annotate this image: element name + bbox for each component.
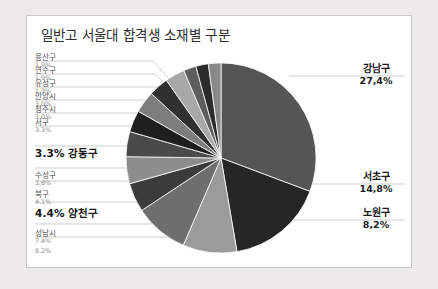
slice-label-seongnam: 성남시 7.4% bbox=[35, 230, 56, 245]
slice-label-nowon: 노원구 8,2% bbox=[347, 208, 405, 229]
slice-label-extra-pct: 8.2% bbox=[35, 248, 51, 255]
pie-svg bbox=[123, 60, 319, 256]
slice-label-gangnam: 강남구 27,4% bbox=[347, 64, 405, 85]
slice-label-pct: 7.4% bbox=[35, 238, 56, 245]
slice-label-bukgu: 북구 4.1% bbox=[35, 191, 51, 206]
slice-label-pct: 8.2% bbox=[35, 248, 51, 255]
slice-label-pct: 8,2% bbox=[347, 220, 405, 230]
slice-label-pct: 3.3% bbox=[35, 127, 51, 134]
slice-label-pct: 4.1% bbox=[35, 199, 51, 206]
slice-label-suseong: 수성구 3.8% bbox=[35, 172, 56, 187]
slice-label-name: 노원구 bbox=[347, 208, 405, 219]
slice-label-yangcheon: 4.4% 양천구 bbox=[35, 208, 99, 219]
pie-chart bbox=[123, 60, 319, 256]
slice-label-name: 서초구 bbox=[347, 172, 405, 183]
slice-label-name: 강남구 bbox=[347, 64, 405, 75]
slice-label-pct: 14,8% bbox=[347, 184, 405, 194]
slice-label-pct: 27,4% bbox=[347, 76, 405, 86]
page-title: 일반고 서울대 합격생 소재별 구분 bbox=[41, 24, 230, 44]
slice-label-seogu: 서구 3.3% bbox=[35, 119, 51, 134]
chart-panel: 일반고 서울대 합격생 소재별 구분 용산구 1.9% bbox=[26, 15, 412, 268]
slice-label-pct: 3.8% bbox=[35, 180, 56, 187]
slice-label-gangdong: 3.3% 강동구 bbox=[35, 148, 99, 159]
slice-label-seocho: 서초구 14,8% bbox=[347, 172, 405, 193]
